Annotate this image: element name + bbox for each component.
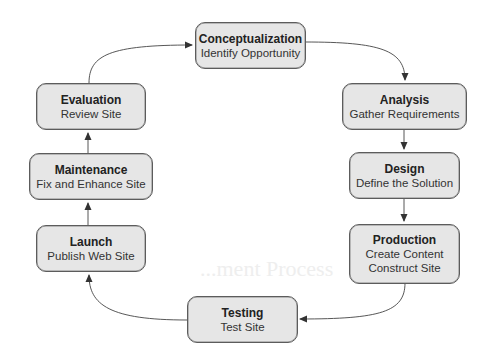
- node-subtitle: Test Site: [220, 320, 264, 334]
- node-subtitle: Gather Requirements: [350, 107, 460, 121]
- node-title: Maintenance: [55, 163, 128, 177]
- node-title: Evaluation: [61, 93, 122, 107]
- node-evaluation: Evaluation Review Site: [36, 83, 146, 130]
- node-subtitle: Publish Web Site: [47, 249, 134, 263]
- node-subtitle-2: Construct Site: [368, 261, 440, 275]
- node-launch: Launch Publish Web Site: [36, 225, 146, 272]
- node-analysis: Analysis Gather Requirements: [342, 83, 467, 130]
- node-title: Analysis: [380, 93, 429, 107]
- node-subtitle: Define the Solution: [356, 176, 453, 190]
- edge-testing-launch: [89, 275, 187, 320]
- edge-production-testing: [300, 283, 405, 319]
- node-subtitle: Create Content: [366, 247, 444, 261]
- node-title: Production: [373, 233, 436, 247]
- node-title: Design: [384, 162, 424, 176]
- node-subtitle: Identify Opportunity: [201, 46, 301, 60]
- edge-evaluation-conceptualization: [89, 45, 192, 83]
- node-subtitle: Fix and Enhance Site: [36, 177, 145, 191]
- edge-conceptualization-analysis: [305, 42, 405, 80]
- node-design: Design Define the Solution: [349, 152, 460, 199]
- node-title: Conceptualization: [199, 32, 302, 46]
- node-title: Testing: [222, 306, 264, 320]
- node-title: Launch: [70, 235, 113, 249]
- node-testing: Testing Test Site: [187, 296, 298, 343]
- node-production: Production Create Content Construct Site: [349, 224, 460, 284]
- node-maintenance: Maintenance Fix and Enhance Site: [29, 153, 153, 200]
- node-subtitle: Review Site: [61, 107, 122, 121]
- node-conceptualization: Conceptualization Identify Opportunity: [195, 22, 306, 69]
